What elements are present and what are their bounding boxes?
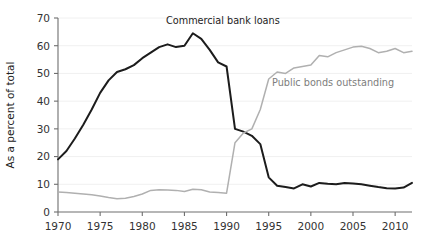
data-series [58,33,412,198]
y-tick-label-40: 40 [37,95,50,107]
y-tick-label-10: 10 [37,178,50,190]
line-chart-plot: 010203040506070 197019751980198519901995… [0,0,422,249]
y-tick-label-30: 30 [37,123,50,135]
x-tick-label-1980: 1980 [129,220,156,232]
x-tick-label-1995: 1995 [255,220,282,232]
x-tick-label-1975: 1975 [87,220,114,232]
y-tick-label-0: 0 [43,206,50,218]
y-tick-label-60: 60 [37,40,50,52]
x-tick-label-2010: 2010 [382,220,409,232]
y-tick-label-50: 50 [37,67,50,79]
commercial-bank-loans-label: Commercial bank loans [166,15,280,26]
x-axis-ticks: 197019751980198519901995200020052010 [45,212,409,232]
x-tick-label-2000: 2000 [297,220,324,232]
x-tick-label-2005: 2005 [340,220,367,232]
grid-lines [58,18,412,184]
y-axis-ticks: 010203040506070 [37,12,58,218]
x-tick-label-1990: 1990 [213,220,240,232]
x-tick-label-1985: 1985 [171,220,198,232]
y-tick-label-70: 70 [37,12,50,24]
x-tick-label-1970: 1970 [45,220,72,232]
public-bonds-outstanding-label: Public bonds outstanding [272,77,394,88]
y-tick-label-20: 20 [37,150,50,162]
chart-container: 010203040506070 197019751980198519901995… [0,0,422,249]
y-axis-label: As a percent of total [4,62,16,169]
series-line-commercial-bank-loans [58,33,412,188]
